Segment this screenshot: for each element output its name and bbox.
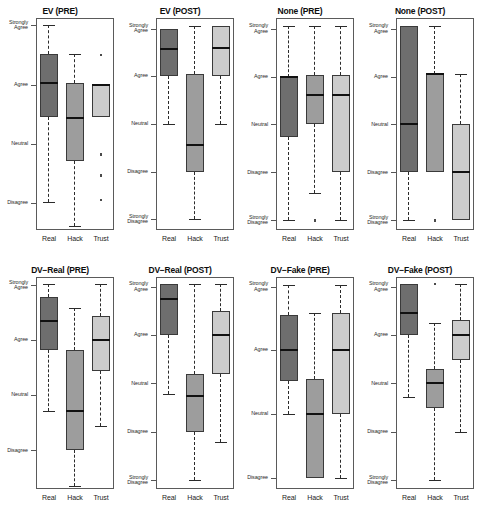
whisker-cap-upper [309,26,321,27]
y-axis-label: Strongly Agree [0,20,28,31]
y-axis-label: Neutral [240,122,268,128]
whisker-cap-upper [189,284,201,285]
y-axis-label: Agree [240,347,268,353]
whisker-lower [434,408,435,481]
x-axis-label-trust: Trust [85,494,117,501]
median-line [452,171,470,173]
y-axis-label: Strongly Disagree [360,215,388,226]
y-axis-tick [151,480,156,481]
y-axis-label: Strongly Disagree [360,475,388,486]
y-axis-label: Agree [360,74,388,80]
y-axis-tick [391,220,396,221]
box-hack [426,369,444,408]
median-line [92,339,110,341]
box-trust [92,85,110,118]
whisker-upper [288,26,289,76]
y-axis-label: Neutral [120,121,148,127]
panel-7: DV−Fake (PRE)Strongly AgreeAgreeNeutralD… [240,259,360,517]
whisker-cap-lower [95,426,107,427]
whisker-upper [220,284,221,311]
y-axis-label: Strongly Agree [240,23,268,34]
whisker-lower [460,360,461,432]
outlier-point [100,153,102,155]
median-line [66,117,84,119]
y-axis-tick [271,414,276,415]
whisker-cap-lower [163,394,175,395]
whisker-lower [48,350,49,411]
whisker-lower [168,335,169,394]
whisker-cap-lower [283,414,295,415]
x-axis-label-trust: Trust [85,235,117,242]
median-line [160,298,178,300]
boxplot-figure: EV (PRE)Strongly AgreeAgreeNeutralDisagr… [0,0,480,517]
y-axis-label: Strongly Agree [120,23,148,34]
panel-2: EV (POST)Strongly AgreeAgreeNeutralDisag… [120,0,240,258]
y-axis-tick [151,432,156,433]
y-axis-tick [271,124,276,125]
whisker-lower [220,76,221,124]
whisker-lower [220,374,221,442]
whisker-upper [434,26,435,74]
whisker-upper [48,284,49,297]
y-axis-label: Agree [120,73,148,79]
whisker-cap-upper [95,284,107,285]
x-axis-label-trust: Trust [445,235,477,242]
median-line [212,47,230,49]
x-axis-label-trust: Trust [325,235,357,242]
whisker-cap-upper [429,323,441,324]
whisker-cap-lower [429,480,441,481]
whisker-cap-lower [69,226,81,227]
whisker-cap-lower [403,220,415,221]
panel-title: EV (PRE) [0,6,120,16]
y-axis-label: Disagree [120,169,148,175]
box-real [40,297,58,350]
median-line [306,413,324,415]
box-real [400,284,418,335]
y-axis-tick [391,480,396,481]
y-axis-tick [151,287,156,288]
median-line [332,349,350,351]
box-hack [306,75,324,124]
y-axis-label: Neutral [0,392,28,398]
whisker-cap-lower [403,397,415,398]
panel-1: EV (PRE)Strongly AgreeAgreeNeutralDisagr… [0,0,120,258]
y-axis-tick [391,383,396,384]
y-axis-label: Disagree [0,448,28,454]
median-line [212,334,230,336]
panel-title: None (POST) [360,6,480,16]
y-axis-label: Disagree [240,170,268,176]
y-axis-tick [31,340,36,341]
whisker-cap-lower [43,411,55,412]
whisker-cap-lower [283,220,295,221]
y-axis-tick [31,144,36,145]
whisker-upper [48,25,49,54]
y-axis-tick [391,287,396,288]
whisker-lower [288,137,289,220]
y-axis-label: Agree [240,74,268,80]
y-axis-tick [151,29,156,30]
y-axis-tick [151,335,156,336]
whisker-lower [74,450,75,486]
panel-title: DV−Fake (PRE) [240,265,360,275]
box-hack [66,350,84,450]
whisker-cap-upper [283,285,295,286]
outlier-point [434,219,436,221]
y-axis-tick [271,287,276,288]
y-axis-label: Disagree [360,429,388,435]
y-axis-label: Disagree [120,429,148,435]
y-axis-label: Neutral [360,122,388,128]
box-trust [92,316,110,371]
whisker-cap-upper [455,74,467,75]
median-line [92,84,110,86]
median-line [186,395,204,397]
whisker-lower [340,414,341,478]
whisker-cap-upper [43,284,55,285]
panel-8: DV−Fake (POST)Strongly AgreeAgreeNeutral… [360,259,480,517]
box-hack [186,74,204,171]
y-axis-tick [31,25,36,26]
y-axis-label: Agree [0,82,28,88]
y-axis-tick [31,395,36,396]
outlier-point [434,283,436,285]
outlier-point [100,199,102,201]
whisker-cap-upper [283,26,295,27]
